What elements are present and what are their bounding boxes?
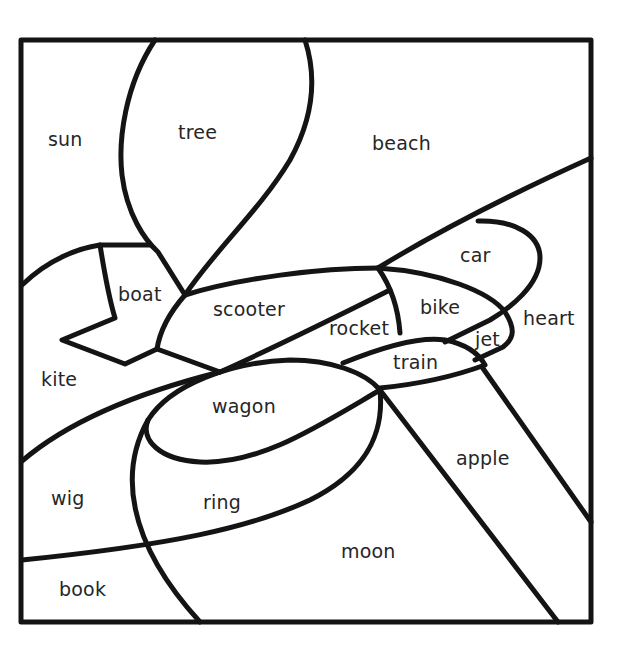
scooter-top-edge bbox=[185, 268, 378, 295]
region-label-bike[interactable]: bike bbox=[420, 298, 460, 317]
heart-apple-divider bbox=[482, 367, 591, 522]
tree-outline bbox=[121, 40, 312, 295]
region-label-sun[interactable]: sun bbox=[48, 130, 83, 149]
region-label-wagon[interactable]: wagon bbox=[212, 397, 276, 416]
region-label-rocket[interactable]: rocket bbox=[329, 319, 389, 338]
region-label-ring[interactable]: ring bbox=[203, 493, 241, 512]
region-label-kite[interactable]: kite bbox=[41, 370, 77, 389]
region-label-wig[interactable]: wig bbox=[51, 489, 84, 508]
apple-moon-divider bbox=[380, 390, 558, 622]
region-label-tree[interactable]: tree bbox=[178, 123, 217, 142]
region-label-heart[interactable]: heart bbox=[523, 309, 575, 328]
region-label-moon[interactable]: moon bbox=[341, 542, 396, 561]
scooter-left-edge bbox=[157, 295, 220, 372]
coloring-worksheet: sun tree beach car boat scooter bike hea… bbox=[0, 0, 625, 653]
boat-top-line bbox=[22, 245, 150, 285]
region-label-train[interactable]: train bbox=[393, 353, 438, 372]
region-label-scooter[interactable]: scooter bbox=[213, 300, 285, 319]
region-label-boat[interactable]: boat bbox=[118, 285, 162, 304]
ring-left-curve bbox=[132, 420, 200, 622]
region-label-jet[interactable]: jet bbox=[475, 330, 500, 349]
ring-outline bbox=[22, 390, 381, 560]
region-label-book[interactable]: book bbox=[59, 580, 106, 599]
region-label-apple[interactable]: apple bbox=[456, 449, 510, 468]
region-label-beach[interactable]: beach bbox=[372, 134, 431, 153]
region-label-car[interactable]: car bbox=[460, 246, 491, 265]
